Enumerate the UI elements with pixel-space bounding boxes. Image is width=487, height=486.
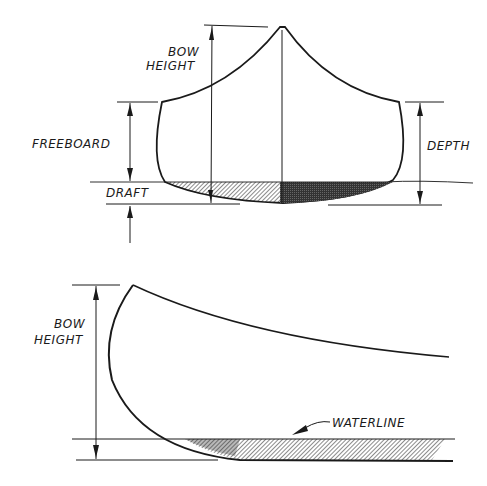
arrow-down-icon <box>417 191 423 203</box>
arrow-down-icon <box>127 168 133 180</box>
side-sheer-line <box>133 285 449 357</box>
canoe-dimensions-diagram: BOW HEIGHT FREEBOARD DRAFT DEPTH <box>0 0 487 486</box>
draft-label: DRAFT <box>106 186 150 200</box>
diagram-svg: BOW HEIGHT FREEBOARD DRAFT DEPTH <box>0 0 487 486</box>
side-bow-profile <box>109 285 453 461</box>
front-bow-height-label-1: BOW <box>168 45 200 59</box>
arrow-up-icon <box>93 287 99 300</box>
arrow-icon <box>292 425 308 435</box>
depth-label: DEPTH <box>427 139 470 153</box>
waterline-leader <box>305 422 330 428</box>
front-bow-height-label-2: HEIGHT <box>146 59 196 73</box>
side-bow-height-label-1: BOW <box>54 317 86 331</box>
bow-height-dimension-line <box>211 26 212 203</box>
side-view: WATERLINE BOW HEIGHT <box>34 285 455 461</box>
arrow-up-icon <box>127 104 133 116</box>
arrow-up-icon <box>417 104 423 116</box>
waterline-label: WATERLINE <box>332 416 405 430</box>
side-draft-dark-shading <box>185 439 240 456</box>
bow-height-top-extension <box>204 25 268 27</box>
arrow-up-icon <box>127 206 133 218</box>
arrow-down-icon <box>93 445 99 458</box>
freeboard-label: FREEBOARD <box>32 137 110 151</box>
side-bow-height-label-2: HEIGHT <box>34 333 84 347</box>
front-view: BOW HEIGHT FREEBOARD DRAFT DEPTH <box>32 25 473 243</box>
